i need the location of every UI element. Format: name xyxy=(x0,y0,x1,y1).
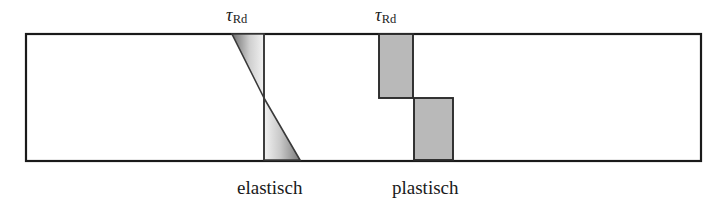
caption-plastic: plastisch xyxy=(392,178,459,197)
cross-section-outline xyxy=(26,34,701,161)
caption-elastic: elastisch xyxy=(237,178,302,197)
tau-rd-label-elastic: τRd xyxy=(226,6,247,26)
stress-distribution-diagram xyxy=(0,0,718,213)
tau-symbol-plastic: τ xyxy=(375,5,382,25)
plastic-upper-rectangle xyxy=(379,34,413,98)
tau-subscript-elastic: Rd xyxy=(233,12,248,26)
tau-subscript-plastic: Rd xyxy=(382,12,397,26)
tau-symbol-elastic: τ xyxy=(226,5,233,25)
tau-rd-label-plastic: τRd xyxy=(375,6,396,26)
plastic-lower-rectangle xyxy=(414,98,453,160)
shear-stress-figure: τRd τRd elastisch plastisch xyxy=(0,0,718,213)
